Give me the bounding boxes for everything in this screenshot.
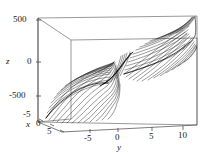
x-tick-label-neg5: -5: [23, 110, 31, 119]
z-tick-label-500: 500: [13, 15, 27, 24]
z-axis-label: z: [6, 57, 10, 66]
y-axis-label: y: [117, 143, 121, 152]
y-tick-label-5: 5: [149, 132, 154, 141]
x-axis-label: x: [26, 120, 30, 129]
plot-canvas: [0, 0, 202, 155]
z-tick-label-neg500: -500: [9, 91, 26, 100]
surface-plot-figure: 500 0 -500 -5 0 5 -5 0 5 10 z x y: [0, 0, 202, 155]
plot-background: [0, 0, 202, 155]
x-tick-label-0: 0: [36, 119, 41, 128]
y-tick-label-0: 0: [115, 133, 120, 142]
y-tick-label-10: 10: [178, 131, 187, 140]
y-tick-label-neg5: -5: [84, 134, 92, 143]
x-tick-label-5: 5: [47, 127, 52, 136]
z-tick-label-0: 0: [27, 57, 32, 66]
